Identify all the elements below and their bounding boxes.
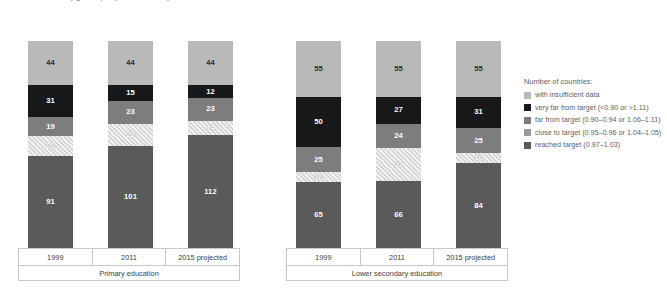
bar-segment-value: 22 bbox=[126, 131, 135, 139]
bar-segment-far-from-target[interactable]: 23 bbox=[108, 101, 153, 124]
bar-segment-value: 44 bbox=[46, 59, 55, 67]
bar-segment-far-from-target[interactable]: 25 bbox=[296, 147, 341, 172]
bar-segment-value: 12 bbox=[206, 88, 215, 96]
bar-segment-value: 44 bbox=[126, 59, 135, 67]
axis-year-label-3[interactable]: 2015 projected bbox=[434, 249, 507, 265]
axis-group-1: 199920112015 projectedPrimary education bbox=[18, 248, 240, 281]
legend-item-insufficient[interactable]: with insufficient data bbox=[524, 91, 667, 99]
bar-segment-very-far-from-target[interactable]: 31 bbox=[28, 85, 73, 116]
bar-segment-insufficient-data[interactable]: 44 bbox=[28, 41, 73, 85]
bar-segment-value: 112 bbox=[204, 188, 217, 196]
bar-segment-value: 33 bbox=[394, 161, 403, 169]
bar-4[interactable]: 5550251065 bbox=[296, 41, 341, 248]
bar-segment-value: 31 bbox=[474, 108, 483, 116]
legend-swatch-icon-reached bbox=[524, 142, 531, 149]
bar-6[interactable]: 5531251084 bbox=[456, 41, 501, 248]
bar-segment-very-far-from-target[interactable]: 50 bbox=[296, 97, 341, 147]
legend-swatch-icon-insufficient bbox=[524, 92, 531, 99]
bar-segment-value: 20 bbox=[46, 142, 55, 150]
legend-label-very-far: very far from target (<0.90 or >1.11) bbox=[535, 104, 649, 112]
bar-segment-reached-target[interactable]: 91 bbox=[28, 156, 73, 248]
legend-item-reached-target[interactable]: reached target (0.97–1.03) bbox=[524, 141, 667, 149]
legend-label-far: far from target (0.90–0.94 or 1.06–1.11) bbox=[535, 116, 661, 124]
bar-segment-insufficient-data[interactable]: 55 bbox=[456, 41, 501, 97]
bar-segment-value: 25 bbox=[474, 137, 483, 145]
bar-1[interactable]: 4431192091 bbox=[28, 41, 73, 248]
bar-segment-far-from-target[interactable]: 19 bbox=[28, 117, 73, 136]
bar-segment-value: 50 bbox=[314, 118, 323, 126]
bar-segment-value: 101 bbox=[124, 193, 137, 201]
bar-segment-very-far-from-target[interactable]: 31 bbox=[456, 97, 501, 128]
bar-segment-value: 84 bbox=[474, 202, 483, 210]
bar-segment-far-from-target[interactable]: 24 bbox=[376, 124, 421, 148]
bar-segment-value: 15 bbox=[126, 89, 135, 97]
bar-segment-close-to-target[interactable]: 10 bbox=[296, 172, 341, 182]
bar-segment-value: 91 bbox=[46, 198, 55, 206]
legend-label-insufficient: with insufficient data bbox=[535, 91, 600, 99]
bar-segment-insufficient-data[interactable]: 55 bbox=[296, 41, 341, 97]
bar-segment-reached-target[interactable]: 66 bbox=[376, 181, 421, 248]
bar-segment-reached-target[interactable]: 101 bbox=[108, 146, 153, 248]
bar-5[interactable]: 5527243366 bbox=[376, 41, 421, 248]
axis-year-row: 199920112015 projected bbox=[287, 249, 507, 266]
chart-legend: Number of countries: with insufficient d… bbox=[524, 77, 667, 154]
bar-segment-value: 10 bbox=[314, 174, 323, 182]
axis-group-label: Primary education bbox=[19, 266, 239, 280]
bar-segment-value: 19 bbox=[46, 123, 55, 131]
bar-segment-value: 27 bbox=[394, 106, 403, 114]
bar-segment-close-to-target[interactable]: 22 bbox=[108, 124, 153, 146]
bar-segment-value: 66 bbox=[394, 211, 403, 219]
bar-2[interactable]: 44152322101 bbox=[108, 41, 153, 248]
bar-segment-value: 31 bbox=[46, 97, 55, 105]
legend-swatch-icon-very-far bbox=[524, 104, 531, 111]
bar-segment-close-to-target[interactable]: 14 bbox=[188, 121, 233, 135]
legend-item-far-from-target[interactable]: far from target (0.90–0.94 or 1.06–1.11) bbox=[524, 116, 667, 124]
axis-year-label-1[interactable]: 1999 bbox=[287, 249, 361, 265]
bar-segment-close-to-target[interactable]: 10 bbox=[456, 153, 501, 163]
bar-segment-reached-target[interactable]: 84 bbox=[456, 163, 501, 248]
bar-segment-value: 23 bbox=[206, 105, 215, 113]
legend-item-close-to-target[interactable]: close to target (0.95–0.96 or 1.04–1.05) bbox=[524, 129, 667, 137]
axis-year-label-2[interactable]: 2011 bbox=[361, 249, 435, 265]
bar-segment-insufficient-data[interactable]: 44 bbox=[108, 41, 153, 85]
bar-segment-value: 25 bbox=[314, 156, 323, 164]
bar-segment-insufficient-data[interactable]: 55 bbox=[376, 41, 421, 97]
axis-year-label-3[interactable]: 2015 projected bbox=[166, 249, 239, 265]
legend-swatch-icon-close bbox=[524, 129, 531, 136]
bar-segment-value: 55 bbox=[314, 65, 323, 73]
axis-year-row: 199920112015 projected bbox=[19, 249, 239, 266]
legend-label-close: close to target (0.95–0.96 or 1.04–1.05) bbox=[535, 129, 661, 137]
bar-segment-reached-target[interactable]: 112 bbox=[188, 135, 233, 248]
bar-segment-value: 55 bbox=[474, 65, 483, 73]
legend-heading: Number of countries: bbox=[524, 77, 667, 86]
bar-segment-very-far-from-target[interactable]: 15 bbox=[108, 85, 153, 100]
bar-segment-very-far-from-target[interactable]: 27 bbox=[376, 97, 421, 124]
axis-year-label-1[interactable]: 1999 bbox=[19, 249, 93, 265]
bar-segment-close-to-target[interactable]: 20 bbox=[28, 136, 73, 156]
bar-segment-value: 44 bbox=[206, 59, 215, 67]
bar-segment-value: 10 bbox=[474, 154, 483, 162]
bar-3[interactable]: 44122314112 bbox=[188, 41, 233, 248]
chart-root: Number of countries by gender parity ind… bbox=[0, 0, 667, 289]
axis-group-label: Lower secondary education bbox=[287, 266, 507, 280]
plot-area: 4431192091441523221014412231411255502510… bbox=[0, 0, 530, 289]
bar-segment-value: 14 bbox=[206, 124, 215, 132]
bar-segment-value: 55 bbox=[394, 65, 403, 73]
bar-segment-reached-target[interactable]: 65 bbox=[296, 182, 341, 248]
bar-segment-value: 23 bbox=[126, 108, 135, 116]
bar-segment-value: 65 bbox=[314, 211, 323, 219]
bar-segment-value: 24 bbox=[394, 132, 403, 140]
bar-segment-insufficient-data[interactable]: 44 bbox=[188, 41, 233, 85]
axis-group-2: 199920112015 projectedLower secondary ed… bbox=[286, 248, 508, 281]
bar-segment-very-far-from-target[interactable]: 12 bbox=[188, 85, 233, 97]
legend-item-very-far-from-target[interactable]: very far from target (<0.90 or >1.11) bbox=[524, 104, 667, 112]
axis-year-label-2[interactable]: 2011 bbox=[93, 249, 167, 265]
legend-label-reached: reached target (0.97–1.03) bbox=[535, 141, 620, 149]
bar-segment-far-from-target[interactable]: 25 bbox=[456, 128, 501, 153]
legend-swatch-icon-far bbox=[524, 117, 531, 124]
bar-segment-close-to-target[interactable]: 33 bbox=[376, 148, 421, 181]
bar-segment-far-from-target[interactable]: 23 bbox=[188, 98, 233, 121]
